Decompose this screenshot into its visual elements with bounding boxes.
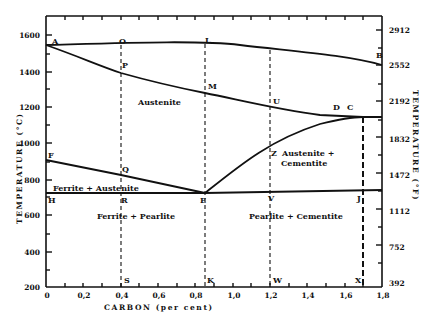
ytick-left: 400 bbox=[24, 248, 40, 257]
region-labels: Austenite Austenite + Cementite Ferrite … bbox=[53, 97, 343, 221]
region-austenite: Austenite bbox=[137, 97, 181, 107]
region-pearlite-cementite: Pearlite + Cementite bbox=[249, 211, 343, 221]
region-austenite-cementite-2: Cementite bbox=[281, 158, 327, 168]
point-Z: Z bbox=[271, 148, 277, 158]
ytick-right: 2552 bbox=[389, 61, 410, 70]
point-D: D bbox=[333, 102, 340, 112]
xtick: 0,4 bbox=[115, 291, 128, 300]
point-B: B bbox=[376, 50, 383, 60]
ytick-left: 200 bbox=[24, 283, 40, 292]
ytick-left: 1600 bbox=[19, 31, 40, 40]
point-S: S bbox=[124, 275, 130, 285]
y-axis-title-right: TEMPERATURE (°F) bbox=[411, 90, 420, 201]
point-A: A bbox=[51, 36, 59, 46]
point-K: K bbox=[207, 275, 215, 285]
ytick-left: 1400 bbox=[19, 68, 40, 77]
point-labels: A O L B P M U D C F Q Z H R E V J S K W … bbox=[48, 35, 383, 285]
xtick: 1,4 bbox=[301, 291, 314, 300]
xtick: 0,6 bbox=[152, 291, 165, 300]
ytick-right: 392 bbox=[389, 279, 405, 288]
point-U: U bbox=[273, 96, 280, 106]
region-austenite-cementite-1: Austenite + bbox=[281, 148, 334, 158]
point-F: F bbox=[48, 150, 54, 160]
ytick-right: 1832 bbox=[389, 135, 410, 144]
point-E: E bbox=[200, 195, 206, 205]
ytick-left: 800 bbox=[24, 176, 40, 185]
point-W: W bbox=[272, 275, 283, 285]
xtick: 1,8 bbox=[376, 291, 389, 300]
x-axis-labels: 0 0,2 0,4 0,6 0,8 1,0 1,2 1,4 1,6 1,8 bbox=[44, 291, 389, 300]
ytick-left: 600 bbox=[24, 211, 40, 220]
ytick-right: 1112 bbox=[389, 207, 410, 216]
point-P: P bbox=[122, 60, 128, 70]
region-ferrite-pearlite: Ferrite + Pearlite bbox=[97, 211, 175, 221]
point-L: L bbox=[205, 35, 211, 45]
xtick: 0,8 bbox=[189, 291, 202, 300]
region-ferrite-austenite: Ferrite + Austenite bbox=[53, 183, 139, 193]
right-axis-labels: 392 752 1112 1472 1832 2192 2552 2912 bbox=[389, 26, 410, 288]
point-H: H bbox=[48, 195, 56, 205]
point-O: O bbox=[119, 36, 126, 46]
x-axis-title: CARBON (per cent) bbox=[104, 303, 214, 312]
point-X: X bbox=[355, 275, 362, 285]
ytick-right: 1472 bbox=[389, 171, 410, 180]
point-V: V bbox=[267, 193, 275, 203]
xtick: 1,0 bbox=[227, 291, 240, 300]
ytick-right: 2912 bbox=[389, 26, 410, 35]
phase-lines bbox=[46, 42, 382, 193]
line-A-O-L-B bbox=[46, 42, 382, 65]
xtick: 1,6 bbox=[339, 291, 352, 300]
iron-carbon-phase-diagram: 200 400 600 800 1000 1200 1400 1600 392 … bbox=[0, 0, 424, 315]
point-J: J bbox=[356, 193, 361, 203]
y-axis-title-left: TEMPERATURE (°C) bbox=[15, 112, 24, 224]
point-Q: Q bbox=[122, 164, 129, 174]
point-C: C bbox=[347, 102, 353, 112]
ytick-right: 2192 bbox=[389, 97, 410, 106]
point-R: R bbox=[121, 195, 128, 205]
xtick: 0 bbox=[44, 291, 49, 300]
ytick-left: 1200 bbox=[19, 103, 40, 112]
dashed-verticals bbox=[121, 44, 270, 287]
xtick: 0,2 bbox=[77, 291, 90, 300]
ytick-right: 752 bbox=[389, 243, 405, 252]
xtick: 1,2 bbox=[264, 291, 277, 300]
point-M: M bbox=[208, 81, 217, 91]
